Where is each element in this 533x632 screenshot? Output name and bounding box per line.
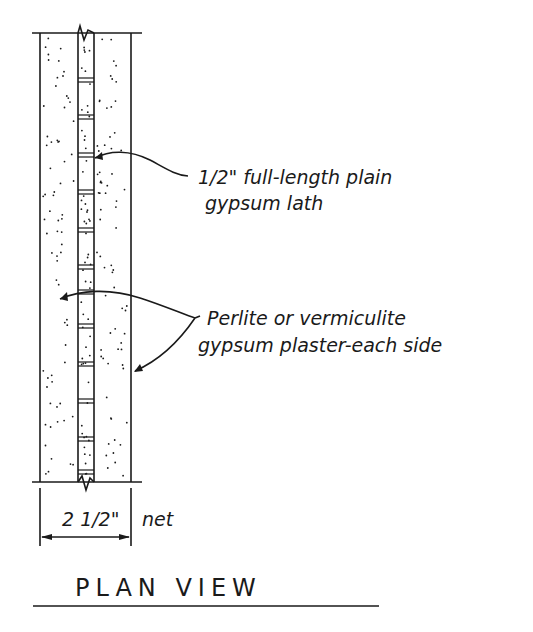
stipple-dot	[87, 254, 89, 256]
stipple-dot	[51, 374, 53, 376]
stipple-dot	[51, 381, 53, 383]
stipple-dot	[85, 362, 87, 364]
stipple-dot	[84, 453, 86, 455]
stipple-dot	[115, 206, 117, 208]
stipple-dot	[57, 220, 59, 222]
stipple-dot	[100, 356, 102, 358]
stipple-dot	[87, 402, 89, 404]
stipple-dot	[100, 182, 102, 184]
stipple-dot	[46, 386, 48, 388]
stipple-dot	[81, 208, 83, 210]
stipple-dot	[106, 185, 108, 187]
stipple-dot	[122, 364, 124, 366]
stipple-dot	[44, 194, 46, 196]
stipple-dot	[63, 420, 65, 422]
stipple-dot	[89, 50, 91, 52]
stipple-dot	[113, 452, 115, 454]
lath-leader-line	[95, 152, 188, 176]
stipple-dot	[86, 160, 88, 162]
stipple-dot	[81, 358, 83, 360]
stipple-dot	[87, 111, 89, 113]
dim-arrow-left	[41, 534, 52, 540]
stipple-dot	[120, 150, 122, 152]
stipple-dot	[124, 333, 126, 335]
stipple-dot	[85, 203, 87, 205]
stipple-dot	[85, 70, 87, 72]
plaster-leader-tick	[195, 316, 200, 318]
stipple-dot	[110, 106, 112, 108]
stipple-dot	[64, 322, 66, 324]
stipple-dot	[57, 141, 59, 143]
stipple-dot	[53, 191, 55, 193]
stipple-dot	[108, 443, 110, 445]
stipple-dot	[58, 60, 60, 62]
stipple-dot	[115, 100, 117, 102]
stipple-dot	[112, 269, 114, 271]
stipple-dot	[87, 318, 89, 320]
stipple-dot	[48, 59, 50, 61]
stipple-dot	[88, 440, 90, 442]
stipple-dot	[89, 287, 91, 289]
stipple-dot	[67, 97, 69, 99]
stipple-dot	[66, 95, 68, 97]
stipple-dot	[81, 109, 83, 111]
stipple-dot	[48, 54, 50, 56]
stipple-dot	[64, 362, 66, 364]
stipple-dot	[115, 65, 117, 67]
stipple-dot	[73, 120, 75, 122]
stipple-dot	[72, 416, 74, 418]
stipple-dot	[87, 209, 89, 211]
stipple-dot	[110, 264, 112, 266]
stipple-dot	[88, 218, 90, 220]
stipple-dot	[124, 189, 126, 191]
stipple-dot	[111, 78, 113, 80]
stipple-dot	[114, 439, 116, 441]
stipple-dot	[121, 349, 123, 351]
stipple-dot	[100, 209, 102, 211]
stipple-dot	[90, 264, 92, 266]
plan-view-drawing: 1/2" full-length plain gypsum lath Perli…	[0, 0, 533, 632]
plaster-leader-right	[135, 318, 195, 371]
stipple-dot	[45, 445, 47, 447]
stipple-dot	[83, 195, 85, 197]
stipple-dot	[44, 219, 46, 221]
stipple-dot	[60, 48, 62, 50]
stipple-dot	[116, 200, 118, 202]
stipple-dot	[57, 77, 59, 79]
stipple-dot	[47, 377, 49, 379]
plaster-label-line1: Perlite or vermiculite	[207, 307, 406, 329]
stipple-dot	[120, 444, 122, 446]
stipple-dot	[102, 358, 104, 360]
stipple-dot	[47, 136, 49, 138]
stipple-dot	[56, 279, 58, 281]
stipple-dot	[85, 473, 87, 475]
stipple-dot	[61, 218, 63, 220]
stipple-dot	[82, 269, 84, 271]
stipple-dot	[105, 192, 107, 194]
break-mark-bottom	[78, 476, 94, 490]
stipple-dot	[99, 100, 101, 102]
stipple-dot	[56, 139, 58, 141]
stipple-dot	[66, 319, 68, 321]
stipple-dot	[113, 287, 115, 289]
plaster-leader-left-arrow	[60, 292, 68, 301]
stipple-dot	[53, 194, 55, 196]
stipple-dot	[111, 148, 113, 150]
stipple-dot	[46, 144, 48, 146]
stipple-dot	[85, 346, 87, 348]
stipple-dot	[89, 220, 91, 222]
stipple-dot	[46, 233, 48, 235]
dimension-value: 2 1/2"	[62, 508, 119, 530]
stipple-dot	[45, 46, 47, 48]
stipple-dot	[56, 260, 58, 262]
stipple-dot	[80, 301, 82, 303]
stipple-dot	[85, 223, 87, 225]
stipple-dot	[65, 344, 67, 346]
stipple-dot	[85, 281, 87, 283]
stipple-dot	[89, 355, 91, 357]
stipple-dot	[114, 328, 116, 330]
stipple-dot	[89, 335, 91, 337]
stipple-dot	[125, 310, 127, 312]
stipple-dot	[85, 233, 87, 235]
stipple-dot	[62, 75, 64, 77]
